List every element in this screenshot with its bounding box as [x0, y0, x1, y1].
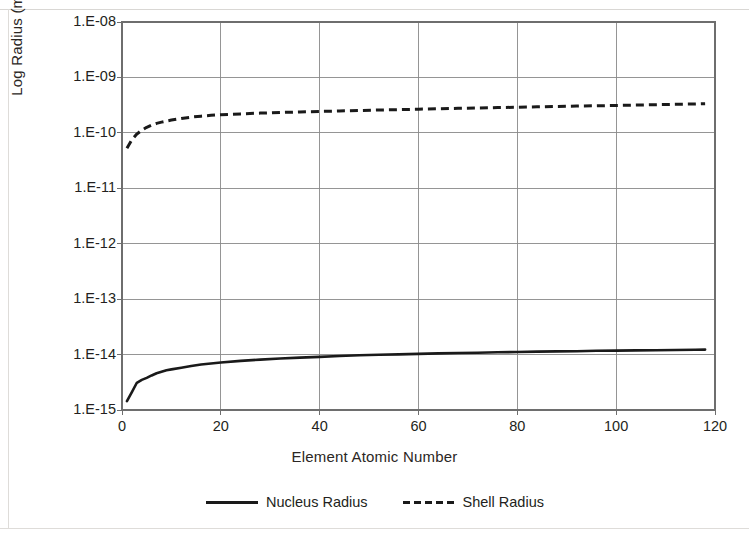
series-line-shell-radius — [127, 104, 705, 148]
legend-dashed-line-icon — [402, 497, 456, 508]
legend-entry-shell-radius: Shell Radius — [402, 494, 544, 510]
x-axis-title: Element Atomic Number — [0, 448, 749, 465]
chart-legend: Nucleus Radius Shell Radius — [0, 494, 749, 510]
legend-label-nucleus-radius: Nucleus Radius — [266, 494, 368, 510]
series-line-nucleus-radius — [127, 350, 705, 401]
legend-entry-nucleus-radius: Nucleus Radius — [205, 494, 368, 510]
legend-label-shell-radius: Shell Radius — [463, 494, 544, 510]
legend-solid-line-icon — [205, 497, 259, 508]
chart-figure: Log Radius (meters) 1.E-151.E-141.E-131.… — [0, 0, 749, 540]
